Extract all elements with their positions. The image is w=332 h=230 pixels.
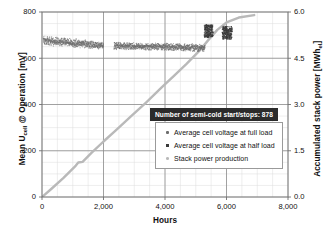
- legend-item-2[interactable]: Stack power production: [156, 152, 282, 165]
- y-axis-right-tick-label: 3.0: [294, 100, 324, 109]
- y-axis-right-tick-label: 6.0: [294, 7, 324, 16]
- x-axis-tick-label: 6,000: [205, 202, 249, 211]
- x-axis-tick-label: 8,000: [266, 202, 310, 211]
- annotation-semi-cold-startstops: Number of semi-cold start/stops: 878: [150, 108, 278, 122]
- y-axis-left-tick-label: 400: [6, 100, 36, 109]
- legend-item-label: Average cell voltage at half load: [172, 142, 275, 149]
- x-axis-tick-label: 2,000: [82, 202, 126, 211]
- y-axis-left-tick-label: 200: [6, 146, 36, 155]
- legend-item-1[interactable]: Average cell voltage at half load: [156, 139, 282, 152]
- y-axis-left-tick-label: 800: [6, 7, 36, 16]
- y-axis-right-tick-label: 0.0: [294, 192, 324, 201]
- y-axis-right-tick-label: 1.5: [294, 146, 324, 155]
- y-axis-left-tick-label: 600: [6, 54, 36, 63]
- x-axis-tick-label: 4,000: [143, 202, 187, 211]
- x-axis-title: Hours: [42, 216, 288, 225]
- x-axis-tick-label: 0: [20, 202, 64, 211]
- legend-marker-square-icon: [163, 144, 172, 147]
- legend-item-label: Average cell voltage at full load: [172, 129, 272, 136]
- legend-marker-dot-icon: [163, 131, 172, 133]
- legend-item-label: Stack power production: [172, 155, 248, 162]
- y-axis-left-tick-label: 0: [6, 192, 36, 201]
- legend-marker-line-icon: [163, 157, 172, 160]
- y-axis-right-tick-label: 4.5: [294, 54, 324, 63]
- chart-container: Mean Ucell @ Operation [mV] Accumulated …: [0, 0, 332, 230]
- legend-item-0[interactable]: Average cell voltage at full load: [156, 126, 282, 139]
- chart-legend: Average cell voltage at full loadAverage…: [155, 122, 283, 169]
